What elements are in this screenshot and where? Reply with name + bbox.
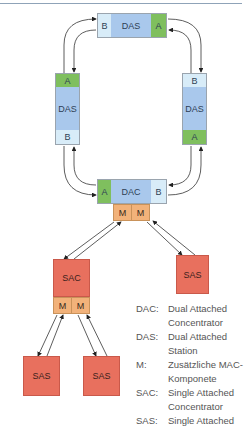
sas-bottom-left-node: SAS <box>23 356 60 396</box>
legend-key: DAS: <box>136 330 168 358</box>
legend-value: Zusätzliche MAC- Komponete <box>168 358 246 386</box>
legend-key: M: <box>136 358 168 386</box>
node-label: DAS <box>111 14 151 37</box>
legend-item-sac: SAC: Single Attached Concentrator <box>136 386 246 414</box>
port-a: A <box>151 14 166 37</box>
legend-key: SAC: <box>136 386 168 414</box>
sac-node: SAC <box>53 259 90 297</box>
legend-item-sas: SAS: Single Attached <box>136 414 246 428</box>
legend-item-m: M: Zusätzliche MAC- Komponete <box>136 358 246 386</box>
node-label: SAS <box>32 371 50 381</box>
port-a: A <box>183 130 206 144</box>
mac-port: M <box>131 205 149 220</box>
top-das-node: B DAS A <box>97 13 167 38</box>
node-label: SAS <box>183 270 201 280</box>
legend-value: Dual Attached Concentrator <box>168 302 246 330</box>
port-b: B <box>56 130 79 144</box>
sac-mac-ports: M M <box>53 297 90 314</box>
legend-line: Station <box>168 344 246 358</box>
legend: DAC: Dual Attached Concentrator DAS: Dua… <box>136 302 246 428</box>
sas-bottom-mid-node: SAS <box>83 356 120 396</box>
legend-line: Dual Attached <box>168 330 246 344</box>
dac-mac-ports: M M <box>113 204 150 221</box>
port-b: B <box>98 14 111 37</box>
legend-value: Dual Attached Station <box>168 330 246 358</box>
legend-line: Single Attached <box>168 414 246 428</box>
legend-line: Komponete <box>168 372 246 386</box>
mac-port: M <box>54 298 71 313</box>
legend-line: Single Attached <box>168 386 246 400</box>
legend-key: DAC: <box>136 302 168 330</box>
legend-item-dac: DAC: Dual Attached Concentrator <box>136 302 246 330</box>
port-a: A <box>98 180 111 203</box>
mac-port: M <box>114 205 131 220</box>
port-a: A <box>56 74 79 87</box>
legend-line: Concentrator <box>168 316 246 330</box>
legend-line: Dual Attached <box>168 302 246 316</box>
node-label: SAC <box>62 273 81 283</box>
node-label: SAS <box>92 371 110 381</box>
node-label: DAS <box>183 87 206 130</box>
legend-line: Zusätzliche MAC- <box>168 358 246 372</box>
legend-item-das: DAS: Dual Attached Station <box>136 330 246 358</box>
legend-key: SAS: <box>136 414 168 428</box>
dac-node: A DAC B <box>97 179 167 204</box>
legend-value: Single Attached Concentrator <box>168 386 246 414</box>
node-label: DAS <box>56 87 79 130</box>
left-das-node: A DAS B <box>55 73 80 145</box>
legend-value: Single Attached <box>168 414 246 428</box>
port-b: B <box>151 180 166 203</box>
sas-right-node: SAS <box>176 255 209 294</box>
node-label: DAC <box>111 180 151 203</box>
right-das-node: B DAS A <box>182 73 207 145</box>
port-b: B <box>183 74 206 87</box>
legend-line: Concentrator <box>168 400 246 414</box>
mac-port: M <box>71 298 89 313</box>
